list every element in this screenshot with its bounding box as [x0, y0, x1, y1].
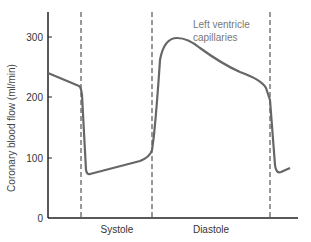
coronary-flow-chart: 300 200 100 0 Coronary blood flow (ml/mi…: [0, 0, 311, 242]
systole-label: Systole: [101, 224, 134, 235]
y-tick-label-200: 200: [26, 92, 43, 103]
y-tick-label-0: 0: [37, 213, 43, 224]
y-tick-label-100: 100: [26, 153, 43, 164]
flow-curve: [48, 38, 290, 174]
y-axis-title: Coronary blood flow (ml/min): [6, 64, 17, 192]
curve-annotation-line1: Left ventricle: [193, 19, 250, 30]
diastole-label: Diastole: [193, 224, 230, 235]
y-tick-label-300: 300: [26, 32, 43, 43]
curve-annotation-line2: capillaries: [193, 32, 237, 43]
